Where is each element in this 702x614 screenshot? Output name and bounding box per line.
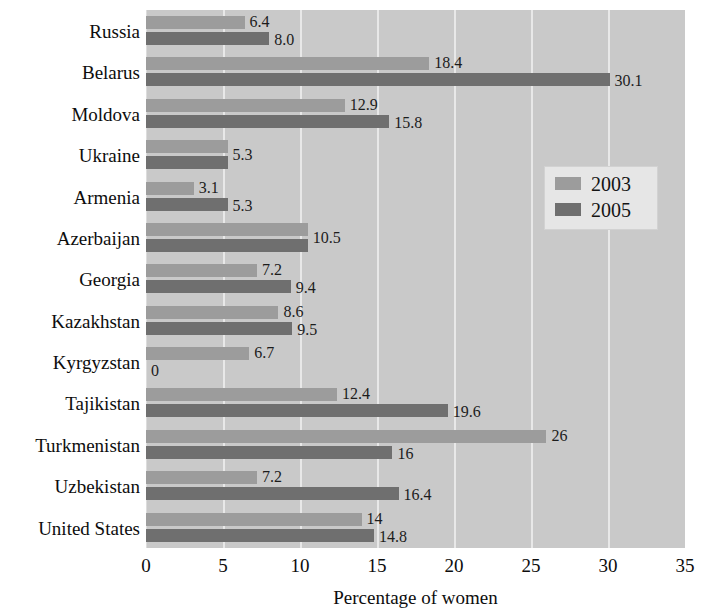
bar-value-label: 30.1 xyxy=(615,73,643,89)
bar-2003 xyxy=(146,57,429,70)
bar-2005 xyxy=(146,446,392,459)
bar-chart: 6.48.018.430.112.915.85.33.15.310.57.29.… xyxy=(0,0,702,614)
bar-value-label: 14.8 xyxy=(379,529,407,545)
bar-group: 6.48.0 xyxy=(146,16,685,57)
bar-2003 xyxy=(146,182,194,195)
legend-swatch-2003 xyxy=(555,177,581,190)
bar-value-label: 10.5 xyxy=(313,230,341,246)
bar-value-label: 6.4 xyxy=(250,14,270,30)
bar-value-label: 18.4 xyxy=(434,55,462,71)
bar-value-label: 12.9 xyxy=(350,97,378,113)
bar-group: 1414.8 xyxy=(146,513,685,548)
chart-legend: 2003 2005 xyxy=(545,167,657,229)
x-axis-tick-label: 20 xyxy=(434,556,474,575)
bar-value-label: 0 xyxy=(151,363,159,379)
category-label: Uzbekistan xyxy=(0,477,140,496)
category-label: Tajikistan xyxy=(0,394,140,413)
bar-2005 xyxy=(146,404,448,417)
bar-2005 xyxy=(146,322,292,335)
bar-value-label: 15.8 xyxy=(394,115,422,131)
category-label: Turkmenistan xyxy=(0,436,140,455)
bar-group: 12.915.8 xyxy=(146,99,685,140)
bar-value-label: 12.4 xyxy=(342,386,370,402)
bar-value-label: 26 xyxy=(551,428,567,444)
bar-value-label: 14 xyxy=(367,511,383,527)
bar-value-label: 5.3 xyxy=(233,147,253,163)
bar-group: 8.69.5 xyxy=(146,306,685,347)
bar-2003 xyxy=(146,264,257,277)
bar-2005 xyxy=(146,529,374,542)
x-axis-tick-label: 35 xyxy=(665,556,702,575)
chart-title xyxy=(146,0,685,1)
bar-value-label: 3.1 xyxy=(199,180,219,196)
bar-value-label: 5.3 xyxy=(233,198,253,214)
bar-2005 xyxy=(146,32,269,45)
x-axis-tick-label: 30 xyxy=(588,556,628,575)
bar-2005 xyxy=(146,198,228,211)
category-label: Kazakhstan xyxy=(0,312,140,331)
category-label: United States xyxy=(0,519,140,538)
x-axis-tick-label: 15 xyxy=(357,556,397,575)
bar-value-label: 8.0 xyxy=(274,32,294,48)
bar-value-label: 16.4 xyxy=(404,487,432,503)
bar-value-label: 9.5 xyxy=(297,322,317,338)
legend-label-2005: 2005 xyxy=(591,199,631,221)
bar-value-label: 9.4 xyxy=(296,280,316,296)
bar-2005 xyxy=(146,156,228,169)
bar-value-label: 6.7 xyxy=(254,345,274,361)
bar-value-label: 7.2 xyxy=(262,262,282,278)
category-label: Ukraine xyxy=(0,146,140,165)
bar-group: 10.5 xyxy=(146,223,685,264)
legend-swatch-2005 xyxy=(555,203,581,216)
bar-2003 xyxy=(146,471,257,484)
category-label: Russia xyxy=(0,22,140,41)
bar-group: 12.419.6 xyxy=(146,388,685,429)
category-label: Moldova xyxy=(0,105,140,124)
bar-value-label: 8.6 xyxy=(283,304,303,320)
plot-area: 6.48.018.430.112.915.85.33.15.310.57.29.… xyxy=(146,10,685,548)
bar-2005 xyxy=(146,280,291,293)
x-axis-tick-label: 5 xyxy=(203,556,243,575)
bar-2003 xyxy=(146,347,249,360)
bar-2003 xyxy=(146,99,345,112)
bar-group: 7.216.4 xyxy=(146,471,685,512)
bar-2005 xyxy=(146,487,399,500)
category-label: Azerbaijan xyxy=(0,229,140,248)
legend-label-2003: 2003 xyxy=(591,173,631,195)
x-axis-tick-label: 25 xyxy=(511,556,551,575)
bar-2005 xyxy=(146,239,308,252)
bar-value-label: 16 xyxy=(397,446,413,462)
x-axis-tick-label: 10 xyxy=(280,556,320,575)
bar-2005 xyxy=(146,73,610,86)
bar-2003 xyxy=(146,16,245,29)
bar-2003 xyxy=(146,223,308,236)
bar-2003 xyxy=(146,388,337,401)
x-axis-title: Percentage of women xyxy=(146,588,685,607)
category-label: Georgia xyxy=(0,270,140,289)
bar-value-label: 7.2 xyxy=(262,469,282,485)
category-label: Kyrgyzstan xyxy=(0,353,140,372)
bar-2003 xyxy=(146,140,228,153)
bar-group: 18.430.1 xyxy=(146,57,685,98)
bar-group: 2616 xyxy=(146,430,685,471)
category-label: Belarus xyxy=(0,63,140,82)
bar-group: 6.70 xyxy=(146,347,685,388)
bar-value-label: 19.6 xyxy=(453,404,481,420)
bar-2005 xyxy=(146,115,389,128)
x-axis-tick-label: 0 xyxy=(126,556,166,575)
bar-group: 7.29.4 xyxy=(146,264,685,305)
bar-2003 xyxy=(146,513,362,526)
bar-2003 xyxy=(146,430,546,443)
bar-2003 xyxy=(146,306,278,319)
category-label: Armenia xyxy=(0,188,140,207)
